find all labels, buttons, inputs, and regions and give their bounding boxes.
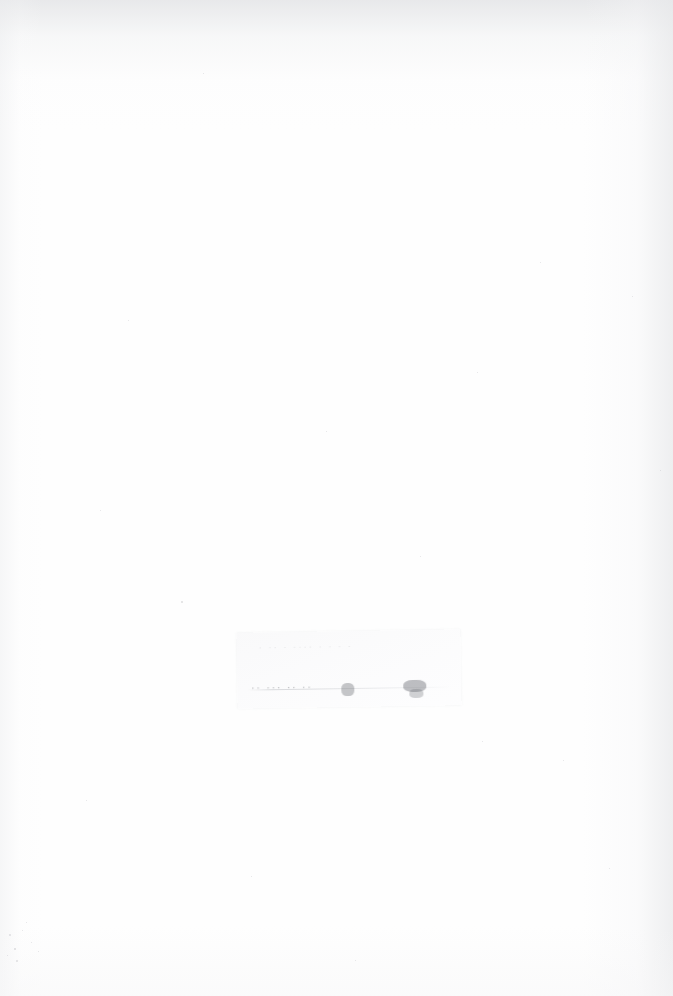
ink-smudge (341, 683, 354, 696)
faded-text-line-upper: · ·· · ···· · · · · (259, 641, 354, 652)
faded-text-line-lower: ·· ··· ·· ·· (251, 682, 313, 694)
ink-smudge (409, 689, 423, 698)
scanned-page: · ·· · ···· · · · · ·· ··· ·· ·· (0, 0, 673, 996)
paper-background (0, 0, 673, 996)
slip-content-area: · ·· · ···· · · · · ·· ··· ·· ·· (236, 629, 461, 709)
document-slip-patch: · ·· · ···· · · · · ·· ··· ·· ·· (236, 629, 461, 709)
